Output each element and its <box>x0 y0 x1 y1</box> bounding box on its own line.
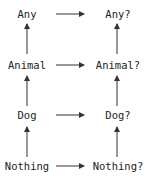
node-nothing-optional: Nothing? <box>93 160 144 172</box>
node-dog: Dog <box>18 109 37 121</box>
node-dog-optional: Dog? <box>105 109 130 121</box>
node-animal: Animal <box>8 59 46 71</box>
node-any: Any <box>18 8 37 20</box>
arrows-layer <box>0 0 148 183</box>
node-nothing: Nothing <box>5 160 49 172</box>
node-animal-optional: Animal? <box>96 59 140 71</box>
node-any-optional: Any? <box>105 8 130 20</box>
